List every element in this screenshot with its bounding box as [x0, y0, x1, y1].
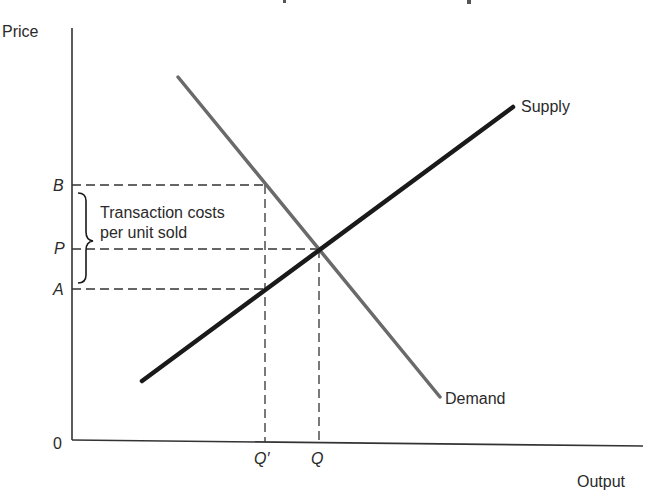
qty-label-Qprime: Q′: [254, 450, 270, 467]
price-label-A: A: [52, 281, 64, 298]
supply-curve: [142, 107, 513, 381]
demand-curve: [178, 77, 440, 397]
x-axis: [72, 440, 643, 446]
demand-label: Demand: [445, 390, 505, 407]
x-axis-label: Output: [577, 473, 626, 490]
transaction-cost-diagram: Price Output 0 B P A Q′ Q Supply Demand …: [0, 0, 655, 502]
annotation-line-1: Transaction costs: [100, 204, 225, 221]
qty-label-Q: Q: [311, 450, 323, 467]
cropped-title-fragment: [283, 0, 471, 4]
annotation-line-2: per unit sold: [100, 224, 187, 241]
price-label-B: B: [53, 177, 64, 194]
price-label-P: P: [54, 240, 65, 257]
transaction-cost-brace: [78, 193, 93, 283]
origin-label: 0: [53, 435, 62, 452]
y-axis-label: Price: [2, 23, 39, 40]
supply-label: Supply: [521, 98, 570, 115]
